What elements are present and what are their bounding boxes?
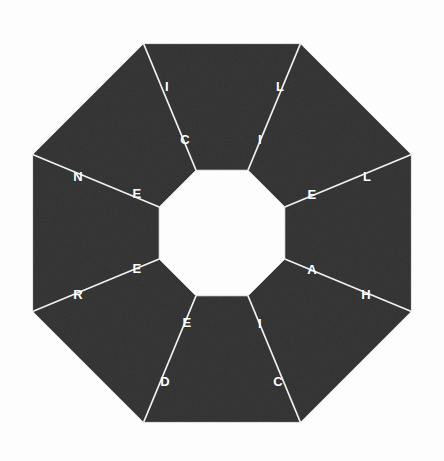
- segment-1-outer-letter: L: [276, 79, 284, 94]
- segment-7-inner-letter: E: [133, 186, 142, 201]
- segment-0-inner-letter: C: [180, 132, 190, 147]
- segment-6-outer-letter: R: [73, 287, 83, 302]
- segment-5-inner-letter: E: [183, 315, 192, 330]
- segment-6-inner-letter: E: [133, 261, 142, 276]
- segment-2-inner-letter: E: [308, 187, 317, 202]
- ring-body: [33, 44, 412, 423]
- segment-7-outer-letter: N: [73, 169, 83, 184]
- octagon-annulus-shape: [33, 44, 412, 423]
- segment-3-outer-letter: H: [361, 287, 371, 302]
- octagon-inner-outline: [159, 170, 285, 296]
- octagon-ring-svg: ICLILEHACIDERENE: [0, 0, 444, 461]
- octagon-ring-figure: ICLILEHACIDERENE: [0, 0, 444, 461]
- segment-2-outer-letter: L: [363, 169, 371, 184]
- segment-0-outer-letter: I: [165, 79, 169, 94]
- segment-3-inner-letter: A: [307, 262, 317, 277]
- segment-4-inner-letter: I: [258, 316, 262, 331]
- segment-5-outer-letter: D: [160, 374, 170, 389]
- segment-1-inner-letter: I: [258, 132, 262, 147]
- segment-4-outer-letter: C: [273, 374, 283, 389]
